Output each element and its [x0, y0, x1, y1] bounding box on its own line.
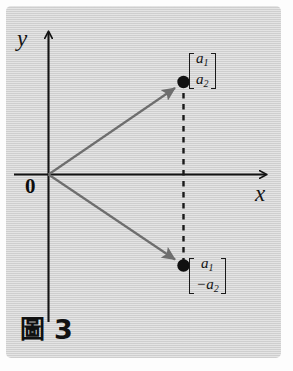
vector-label-bottom-row1: a1 [196, 255, 219, 276]
vector-label-top: a1 a2 [189, 50, 216, 92]
vector-bottom-row2-sign: − [196, 276, 206, 292]
vector-bottom-row2-base: a [206, 276, 214, 292]
point-dot-top [177, 76, 189, 88]
figure-container: y x 0 a1 a2 a1 −a2 圖 3 [0, 0, 293, 371]
bracket-right-icon [221, 258, 226, 294]
vector-label-top-row1: a1 [196, 50, 209, 71]
vector-label-top-row2: a2 [196, 71, 209, 92]
vector-arrow-bottom [49, 175, 176, 260]
y-axis-label: y [17, 27, 27, 50]
figure-caption: 圖 3 [20, 316, 73, 343]
vector-top-row1-sub: 1 [204, 57, 209, 68]
vector-bottom-row1-base: a [201, 255, 209, 271]
vector-bottom-row2-sub: 2 [214, 283, 219, 294]
vector-label-bottom-rows: a1 −a2 [194, 255, 221, 297]
origin-label: 0 [25, 176, 36, 197]
figure-caption-number: 3 [54, 316, 73, 343]
point-dot-bottom [177, 259, 189, 271]
vector-top-row1-base: a [196, 50, 204, 66]
x-axis-label: x [255, 182, 265, 205]
vector-label-bottom: a1 −a2 [189, 255, 226, 297]
vector-label-top-rows: a1 a2 [194, 50, 211, 92]
vector-bottom-row1-sub: 1 [209, 262, 214, 273]
vector-arrow-top [49, 88, 176, 175]
bracket-right-icon [211, 53, 216, 89]
vector-top-row2-base: a [196, 71, 204, 87]
vector-label-bottom-row2: −a2 [196, 276, 219, 297]
figure-caption-cjk: 圖 [20, 317, 45, 342]
vector-top-row2-sub: 2 [204, 78, 209, 89]
